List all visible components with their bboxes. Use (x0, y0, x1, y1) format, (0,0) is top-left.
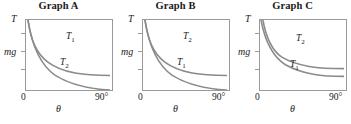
graph-b-y-top-label: T (128, 13, 134, 24)
graph-panel-c: Graph C T mg T2 T1 0 90° θ (234, 0, 351, 124)
graph-c-x-axis-name: θ (234, 103, 351, 114)
graph-b-y-mid-label: mg (121, 46, 133, 57)
graph-panel-b: Graph B T mg T2 T1 0 90° θ (117, 0, 234, 124)
graph-b-x-start-label: 0 (138, 92, 143, 102)
graph-a-label-lower: T2 (60, 57, 69, 70)
graph-a-title: Graph A (0, 0, 117, 11)
graph-a-plot-area (25, 19, 113, 91)
graph-c-curves (260, 20, 346, 90)
graph-b-label-lower-sub: 1 (182, 62, 186, 70)
graph-c-label-lower-sub: 1 (295, 64, 299, 72)
graph-a-x-end-label: 90° (95, 92, 108, 102)
graph-a-label-upper-sub: 1 (71, 36, 75, 44)
three-graph-figure: Graph A T mg T1 T2 0 90° θ Graph B T mg (0, 0, 351, 124)
graph-c-y-mid-label: mg (238, 46, 250, 57)
graph-c-label-upper: T2 (296, 33, 305, 46)
graph-a-label-lower-sub: 2 (65, 62, 69, 70)
graph-b-plot-area (142, 19, 230, 91)
graph-a-y-top-label: T (11, 13, 17, 24)
graph-a-curve-upper (28, 20, 110, 75)
graph-b-label-lower: T1 (177, 57, 186, 70)
graph-a-x-start-label: 0 (21, 92, 26, 102)
graph-c-label-upper-sub: 2 (301, 38, 305, 46)
graph-c-y-top-label: T (245, 13, 251, 24)
graph-b-curve-upper (145, 20, 227, 75)
graph-b-title: Graph B (117, 0, 234, 11)
graph-a-x-axis-name: θ (0, 103, 117, 114)
graph-c-x-start-label: 0 (255, 92, 260, 102)
graph-c-x-end-label: 90° (329, 92, 342, 102)
graph-b-x-end-label: 90° (212, 92, 225, 102)
graph-c-label-lower: T1 (290, 59, 299, 72)
graph-a-y-mid-label: mg (4, 46, 16, 57)
graph-a-label-upper: T1 (66, 31, 75, 44)
graph-b-label-upper-sub: 2 (188, 36, 192, 44)
graph-b-x-axis-name: θ (117, 103, 234, 114)
graph-b-label-upper: T2 (183, 31, 192, 44)
graph-c-plot-area (259, 19, 347, 91)
graph-c-title: Graph C (234, 0, 351, 11)
graph-panel-a: Graph A T mg T1 T2 0 90° θ (0, 0, 117, 124)
